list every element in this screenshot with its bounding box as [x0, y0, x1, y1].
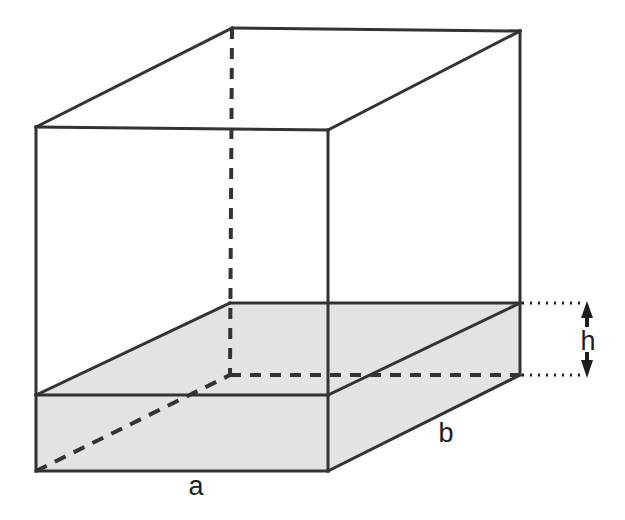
edge-top-right-slant [328, 31, 520, 130]
figure-canvas [0, 0, 625, 520]
label-h: h [580, 328, 595, 355]
label-b: b [438, 420, 453, 447]
slab-front-face [36, 395, 328, 471]
edge-top-back [232, 28, 520, 31]
label-a: a [188, 473, 203, 500]
arrow-up-head-icon [581, 301, 593, 318]
arrow-down-head-icon [581, 360, 593, 378]
edge-top-front [36, 127, 328, 130]
geometry-figure: a b h [0, 0, 625, 520]
edge-top-left-slant [36, 28, 232, 127]
